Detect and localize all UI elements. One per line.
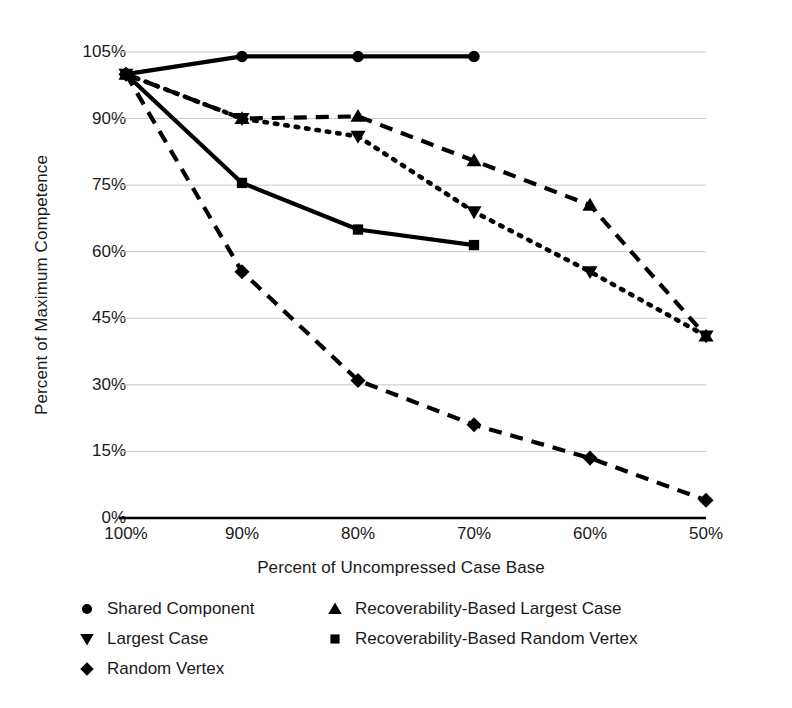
legend-label: Recoverability-Based Random Vertex [355, 629, 638, 649]
circle-icon [468, 51, 479, 62]
data-point-circle [468, 51, 479, 62]
series-line-2 [126, 74, 706, 500]
series-line-1 [126, 74, 706, 336]
circle-icon [236, 51, 247, 62]
data-point-circle [236, 51, 247, 62]
chart-legend: Shared ComponentRecoverability-Based Lar… [78, 594, 778, 684]
data-point-square [469, 240, 479, 250]
legend-item[interactable]: Random Vertex [78, 659, 326, 679]
circle-icon [82, 604, 92, 614]
legend-item[interactable]: Recoverability-Based Random Vertex [326, 629, 778, 649]
square-icon [237, 178, 247, 188]
data-point-circle [352, 51, 363, 62]
data-point-circle [82, 604, 92, 614]
square-icon [469, 240, 479, 250]
x-axis-title: Percent of Uncompressed Case Base [96, 558, 706, 578]
data-point-triangle-up [328, 602, 341, 613]
legend-label: Random Vertex [107, 659, 224, 679]
circle-icon [352, 51, 363, 62]
data-point-square [121, 69, 131, 79]
series-line-3 [126, 74, 706, 336]
square-icon [330, 634, 339, 643]
data-point-square [330, 634, 339, 643]
diamond-icon [80, 662, 93, 675]
triangle-down-icon [466, 206, 481, 219]
data-point-triangle-down [466, 206, 481, 219]
square-icon [121, 69, 131, 79]
data-point-triangle-down [80, 634, 93, 645]
legend-label: Shared Component [107, 599, 254, 619]
legend-label: Recoverability-Based Largest Case [355, 599, 621, 619]
triangle-up-icon [328, 602, 341, 613]
data-point-square [353, 224, 363, 234]
square-icon [353, 224, 363, 234]
square-icon [326, 630, 344, 648]
triangle-up-icon [350, 109, 365, 122]
triangle-down-icon [350, 131, 365, 144]
legend-item[interactable]: Shared Component [78, 599, 326, 619]
triangle-up-icon [326, 600, 344, 618]
chart-container: Percent of Maximum Competence 0%15%30%45… [0, 0, 792, 708]
circle-icon [78, 600, 96, 618]
series-line-0 [126, 56, 474, 74]
data-point-triangle-down [350, 131, 365, 144]
diamond-icon [466, 417, 481, 432]
data-point-diamond [80, 662, 93, 675]
triangle-down-icon [80, 634, 93, 645]
diamond-icon [698, 493, 713, 508]
legend-item[interactable]: Recoverability-Based Largest Case [326, 599, 778, 619]
diamond-icon [582, 451, 597, 466]
legend-label: Largest Case [107, 629, 208, 649]
legend-item[interactable]: Largest Case [78, 629, 326, 649]
data-point-triangle-up [582, 198, 597, 211]
triangle-down-icon [78, 630, 96, 648]
data-point-square [237, 178, 247, 188]
diamond-icon [78, 660, 96, 678]
triangle-up-icon [582, 198, 597, 211]
data-point-diamond [466, 417, 481, 432]
data-point-triangle-up [350, 109, 365, 122]
data-point-diamond [582, 451, 597, 466]
marker-layer [118, 51, 713, 508]
data-point-diamond [698, 493, 713, 508]
